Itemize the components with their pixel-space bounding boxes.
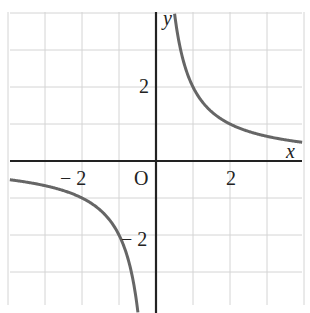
origin-label: O	[134, 167, 148, 189]
y-axis-label: y	[161, 7, 172, 30]
y-tick-label-neg2: − 2	[121, 228, 147, 250]
curve-branch-positive	[175, 14, 303, 143]
y-tick-label-2: 2	[139, 75, 149, 97]
x-axis-label: x	[285, 140, 295, 162]
x-tick-label-neg2: − 2	[60, 167, 86, 189]
x-tick-label-2: 2	[226, 167, 236, 189]
axes	[10, 12, 302, 313]
function-graph: x y O − 2 2 2 − 2	[0, 0, 310, 313]
